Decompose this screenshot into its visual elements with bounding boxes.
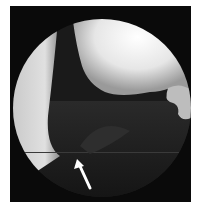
arthroscopic-view [10,6,191,202]
scope-image-frame [10,6,191,202]
scope-field [10,6,191,202]
